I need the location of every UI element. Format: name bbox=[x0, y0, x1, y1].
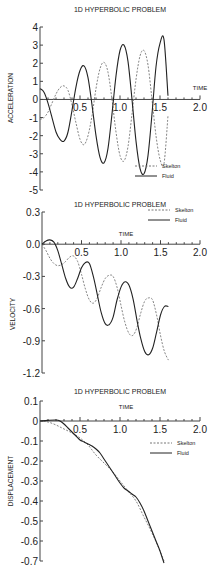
chart-title: 1D HYPERBOLIC PROBLEM bbox=[74, 201, 166, 208]
y-tick-label: 0.0 bbox=[26, 239, 40, 250]
y-tick-label: -1.2 bbox=[23, 368, 41, 379]
y-tick-label: -5 bbox=[29, 185, 38, 194]
y-tick-label: -0.7 bbox=[21, 556, 39, 567]
y-tick-label: 3 bbox=[32, 40, 38, 51]
y-tick-label: -3 bbox=[29, 149, 38, 160]
displacement-chart: 1D HYPERBOLIC PROBLEM0.10-0.1-0.2-0.3-0.… bbox=[0, 386, 220, 582]
y-axis-label: ACCELERATION bbox=[7, 73, 14, 123]
y-tick-label: -0.3 bbox=[23, 271, 41, 282]
series-fluid bbox=[40, 420, 164, 563]
x-tick-label: 1.0 bbox=[113, 102, 127, 113]
series-fluid bbox=[40, 36, 168, 175]
legend-label-fluid: Fluid bbox=[177, 450, 189, 456]
x-tick-label: 1.0 bbox=[113, 424, 127, 435]
y-tick-label: -2 bbox=[29, 131, 38, 142]
x-tick-label: 1.5 bbox=[153, 102, 167, 113]
legend-label-fluid: Fluid bbox=[162, 173, 174, 179]
y-axis-label: VELOCITY bbox=[9, 297, 16, 330]
x-tick-label: 1.0 bbox=[114, 247, 128, 258]
x-tick-label: 0.5 bbox=[75, 247, 89, 258]
legend-label-fluid: Fluid bbox=[175, 217, 187, 223]
y-tick-label: -0.6 bbox=[23, 304, 41, 315]
chart-title: 1D HYPERBOLIC PROBLEM bbox=[74, 388, 166, 395]
acceleration-chart-svg: 1D HYPERBOLIC PROBLEM43210-1-2-3-4-50.51… bbox=[0, 0, 220, 194]
x-axis-label: TIME bbox=[193, 85, 207, 91]
y-tick-label: 0 bbox=[32, 416, 38, 427]
x-axis-label: TIME bbox=[119, 231, 133, 237]
y-tick-label: 0 bbox=[32, 94, 38, 105]
x-tick-label: 0.5 bbox=[73, 102, 87, 113]
y-axis-label: DISPLACEMENT bbox=[7, 456, 14, 507]
y-tick-label: 4 bbox=[32, 22, 38, 33]
legend-label-skelton: Skelton bbox=[177, 440, 195, 446]
legend-label-skelton: Skelton bbox=[162, 163, 180, 169]
y-tick-label: 1 bbox=[32, 76, 38, 87]
y-tick-label: -0.4 bbox=[21, 496, 39, 507]
y-tick-label: 0.3 bbox=[26, 207, 40, 218]
x-tick-label: 1.5 bbox=[154, 247, 168, 258]
y-tick-label: -0.6 bbox=[21, 536, 39, 547]
x-tick-label: 2.0 bbox=[193, 247, 207, 258]
legend-label-skelton: Skelton bbox=[175, 207, 193, 213]
y-tick-label: -0.1 bbox=[21, 436, 39, 447]
acceleration-chart: 1D HYPERBOLIC PROBLEM43210-1-2-3-4-50.51… bbox=[0, 0, 220, 194]
y-tick-label: -4 bbox=[29, 167, 38, 178]
y-tick-label: -1 bbox=[29, 113, 38, 124]
y-tick-label: -0.3 bbox=[21, 476, 39, 487]
x-tick-label: 2.0 bbox=[193, 102, 207, 113]
x-tick-label: 2.0 bbox=[193, 424, 207, 435]
x-tick-label: 1.5 bbox=[153, 424, 167, 435]
y-tick-label: 2 bbox=[32, 58, 38, 69]
x-axis-label: TIME bbox=[119, 404, 133, 410]
x-tick-label: 0.5 bbox=[73, 424, 87, 435]
y-tick-label: -0.2 bbox=[21, 456, 39, 467]
chart-title: 1D HYPERBOLIC PROBLEM bbox=[74, 6, 166, 13]
y-tick-label: 0.1 bbox=[24, 396, 38, 407]
velocity-chart: 1D HYPERBOLIC PROBLEM0.30.0-0.3-0.6-0.9-… bbox=[0, 194, 220, 386]
displacement-chart-svg: 1D HYPERBOLIC PROBLEM0.10-0.1-0.2-0.3-0.… bbox=[0, 386, 220, 582]
y-tick-label: -0.5 bbox=[21, 516, 39, 527]
y-tick-label: -0.9 bbox=[23, 336, 41, 347]
velocity-chart-svg: 1D HYPERBOLIC PROBLEM0.30.0-0.3-0.6-0.9-… bbox=[0, 194, 220, 386]
series-skelton bbox=[40, 421, 164, 561]
